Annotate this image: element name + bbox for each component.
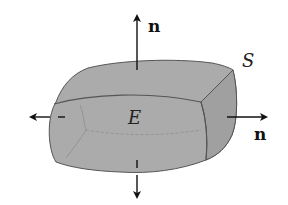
divergence-theorem-diagram: n S E n	[0, 0, 288, 205]
normal-label-right: n	[254, 124, 266, 144]
region-label: E	[127, 107, 141, 128]
surface-label: S	[242, 50, 254, 71]
normal-label-top: n	[148, 16, 160, 36]
solid-region	[49, 60, 236, 172]
